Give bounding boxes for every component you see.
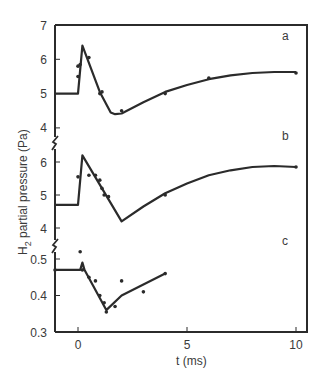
panel-label-b: b: [282, 129, 289, 143]
fit-curve-c: [55, 263, 165, 311]
y-tick-label: 7: [40, 19, 47, 33]
data-point-a: [207, 76, 211, 80]
data-point-a: [76, 75, 80, 79]
y-tick-label: 5: [40, 189, 47, 203]
data-point-c: [105, 310, 109, 314]
data-point-c: [102, 301, 106, 305]
fit-curve-a: [55, 46, 296, 115]
data-point-c: [120, 279, 124, 283]
data-point-a: [78, 63, 82, 67]
y-axis-title-post: partial pressure (Pa): [16, 129, 30, 241]
data-point-c: [98, 294, 102, 298]
data-point-c: [113, 305, 117, 309]
y-tick-label: 0.4: [30, 289, 47, 303]
y-tick-label: 0.3: [30, 326, 47, 340]
data-point-c: [81, 268, 85, 272]
data-point-b: [294, 165, 298, 169]
axis-break-icon: [52, 136, 58, 150]
data-point-c: [87, 275, 91, 279]
data-point-c: [163, 272, 167, 276]
y-tick-label: 6: [40, 53, 47, 67]
y-tick-label: 5: [40, 87, 47, 101]
y-axis-title-pre: H: [16, 246, 30, 255]
chart: 051045674560.30.40.5 a b c t (ms) H2 par…: [0, 0, 325, 388]
y-tick-label: 4: [40, 222, 47, 236]
x-axis-title: t (ms): [176, 354, 207, 368]
fit-curves: [55, 46, 296, 311]
data-point-b: [163, 193, 167, 197]
data-point-a: [120, 109, 124, 113]
data-point-a: [294, 71, 298, 75]
x-tick-label: 10: [289, 338, 303, 352]
x-tick-label: 0: [75, 338, 82, 352]
fit-curve-b: [55, 155, 296, 221]
data-point-a: [100, 90, 104, 94]
y-axis-title: H2 partial pressure (Pa): [16, 129, 33, 255]
data-point-a: [163, 92, 167, 96]
data-point-c: [78, 250, 82, 254]
x-tick-label: 5: [184, 338, 191, 352]
data-point-c: [94, 279, 98, 283]
y-tick-label: 6: [40, 156, 47, 170]
data-point-a: [87, 56, 91, 60]
panel-label-a: a: [282, 29, 289, 43]
data-point-b: [100, 187, 104, 191]
plot-frame: [52, 25, 307, 332]
y-tick-label: 0.5: [30, 253, 47, 267]
panel-label-c: c: [282, 234, 288, 248]
data-points: [53, 56, 298, 314]
data-point-b: [87, 173, 91, 177]
data-point-b: [98, 178, 102, 182]
data-point-b: [107, 195, 111, 199]
tick-labels: 051045674560.30.40.5: [30, 19, 303, 353]
data-point-b: [102, 193, 106, 197]
data-point-c: [142, 290, 146, 294]
y-tick-label: 4: [40, 121, 47, 135]
data-point-b: [76, 175, 80, 179]
axis-break-icon: [52, 239, 58, 253]
data-point-b: [94, 173, 98, 177]
data-point-c: [53, 268, 57, 272]
